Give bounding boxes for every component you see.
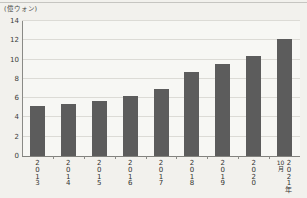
x-tick-1 [53, 156, 54, 159]
x-tick-7 [238, 156, 239, 159]
x-label-char: 5 [97, 180, 101, 187]
x-label-2019: 2019 [221, 160, 225, 194]
bar-slot-2015 [84, 21, 115, 156]
y-tick-label-10: 10 [0, 56, 19, 64]
x-tick-4 [146, 156, 147, 159]
x-tick-6 [207, 156, 208, 159]
bar-slot-2014 [53, 21, 84, 156]
x-label-main-2014: 2014 [66, 160, 70, 187]
plot-area: 02468101214 2013201420152016201720182019… [22, 21, 300, 156]
x-label-slot-2014: 2014 [53, 160, 84, 194]
x-label-main-2013: 2013 [35, 160, 39, 187]
bar-slot-2013 [22, 21, 53, 156]
x-label-prefix-2021年: 10月 [277, 160, 285, 172]
y-tick-label-2: 2 [0, 133, 19, 141]
x-label-main-2016: 2016 [128, 160, 132, 187]
bar-2014 [61, 104, 76, 156]
x-label-slot-2020: 2020 [238, 160, 269, 194]
x-label-2021年: 10月2021年 [277, 160, 293, 194]
bar-2016 [123, 96, 138, 156]
x-label-char: 6 [128, 180, 132, 187]
bar-2020 [246, 56, 261, 156]
y-tick-label-8: 8 [0, 75, 19, 83]
x-label-char: 3 [35, 180, 39, 187]
x-label-slot-2019: 2019 [207, 160, 238, 194]
x-axis-labels: 2013201420152016201720182019202010月2021年 [22, 160, 300, 194]
y-axis-line [22, 21, 23, 156]
bar-2021年 [277, 39, 292, 156]
x-label-slot-2015: 2015 [84, 160, 115, 194]
bar-slot-2016 [115, 21, 146, 156]
x-label-slot-2013: 2013 [22, 160, 53, 194]
x-tick-2 [84, 156, 85, 159]
x-tick-5 [176, 156, 177, 159]
bar-2017 [154, 89, 169, 157]
bars-layer [22, 21, 300, 156]
x-tick-3 [115, 156, 116, 159]
bar-2018 [184, 72, 199, 156]
bar-slot-2020 [238, 21, 269, 156]
x-label-main-2017: 2017 [159, 160, 163, 187]
x-label-2020: 2020 [251, 160, 255, 194]
x-label-main-2021年: 2021年 [285, 160, 292, 194]
bar-slot-2019 [207, 21, 238, 156]
y-tick-label-12: 12 [0, 36, 19, 44]
x-label-char: 4 [66, 180, 70, 187]
x-label-char: 7 [159, 180, 163, 187]
y-tick-label-14: 14 [0, 17, 19, 25]
x-label-2013: 2013 [35, 160, 39, 194]
x-label-2014: 2014 [66, 160, 70, 194]
x-label-2015: 2015 [97, 160, 101, 194]
x-label-slot-2021年: 10月2021年 [269, 160, 300, 194]
bar-2019 [215, 64, 230, 156]
x-label-slot-2018: 2018 [176, 160, 207, 194]
x-label-main-2020: 2020 [251, 160, 255, 187]
top-rule [0, 2, 307, 3]
x-label-main-2015: 2015 [97, 160, 101, 187]
x-label-char: 0 [251, 180, 255, 187]
x-label-2018: 2018 [190, 160, 194, 194]
y-tick-label-6: 6 [0, 94, 19, 102]
bar-slot-2021年 [269, 21, 300, 156]
bar-slot-2018 [176, 21, 207, 156]
y-axis-labels: 02468101214 [0, 21, 19, 156]
bar-2013 [30, 106, 45, 156]
bar-2015 [92, 101, 107, 156]
x-label-slot-2017: 2017 [146, 160, 177, 194]
x-label-2017: 2017 [159, 160, 163, 194]
x-label-char: 9 [221, 180, 225, 187]
x-label-main-2019: 2019 [221, 160, 225, 187]
y-tick-label-0: 0 [0, 152, 19, 160]
x-label-char: 8 [190, 180, 194, 187]
x-label-char: 月 [278, 166, 284, 172]
bar-slot-2017 [146, 21, 177, 156]
y-tick-label-4: 4 [0, 113, 19, 121]
x-label-main-2018: 2018 [190, 160, 194, 187]
x-label-slot-2016: 2016 [115, 160, 146, 194]
x-tick-8 [269, 156, 270, 159]
x-label-char: 年 [285, 187, 292, 194]
y-axis-unit-label: (億ウォン) [4, 5, 37, 13]
x-label-2016: 2016 [128, 160, 132, 194]
